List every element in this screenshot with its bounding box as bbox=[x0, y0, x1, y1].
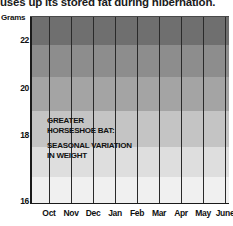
y-axis-labels: 22 20 18 16 bbox=[0, 0, 29, 226]
annotation-line-1: GREATER bbox=[47, 116, 84, 125]
x-tick-apr: Apr bbox=[174, 208, 188, 218]
y-axis-line bbox=[30, 17, 32, 204]
y-tick-16: 16 bbox=[1, 196, 29, 206]
gridline-oct bbox=[49, 17, 50, 203]
y-tick-22: 22 bbox=[1, 35, 29, 45]
plot-top-border bbox=[30, 16, 229, 17]
x-tick-dec: Dec bbox=[86, 208, 101, 218]
y-tick-20: 20 bbox=[1, 83, 29, 93]
figure-caption: uses up its stored fat during hibernatio… bbox=[0, 0, 233, 12]
gridline-jan bbox=[115, 17, 116, 203]
x-tick-oct: Oct bbox=[42, 208, 55, 218]
x-tick-jan: Jan bbox=[108, 208, 122, 218]
annotation-line-2: HORSESHOE BAT: bbox=[47, 126, 114, 135]
gridline-may bbox=[203, 17, 204, 203]
chart-annotation: GREATER HORSESHOE BAT: SEASONAL VARIATIO… bbox=[47, 116, 132, 161]
band-6 bbox=[31, 177, 229, 203]
band-1 bbox=[31, 17, 229, 45]
annotation-line-4: IN WEIGHT bbox=[47, 151, 87, 160]
x-tick-may: May bbox=[195, 208, 211, 218]
x-axis-labels: Oct Nov Dec Jan Feb Mar Apr May June bbox=[28, 208, 233, 222]
x-tick-june: June bbox=[216, 208, 233, 218]
gridline-mar bbox=[159, 17, 160, 203]
annotation-line-3: SEASONAL VARIATION bbox=[47, 141, 132, 150]
chart-figure: uses up its stored fat during hibernatio… bbox=[0, 0, 233, 226]
x-axis-line bbox=[30, 203, 229, 205]
x-tick-mar: Mar bbox=[152, 208, 166, 218]
x-tick-nov: Nov bbox=[63, 208, 78, 218]
x-tick-feb: Feb bbox=[130, 208, 144, 218]
plot-area bbox=[31, 17, 229, 203]
y-tick-18: 18 bbox=[1, 130, 29, 140]
gridline-apr bbox=[181, 17, 182, 203]
gridline-feb bbox=[137, 17, 138, 203]
gridline-nov bbox=[71, 17, 72, 203]
band-2 bbox=[31, 45, 229, 77]
gridline-dec bbox=[93, 17, 94, 203]
gridline-june bbox=[225, 17, 226, 203]
background-bands bbox=[31, 17, 229, 203]
band-3 bbox=[31, 77, 229, 111]
